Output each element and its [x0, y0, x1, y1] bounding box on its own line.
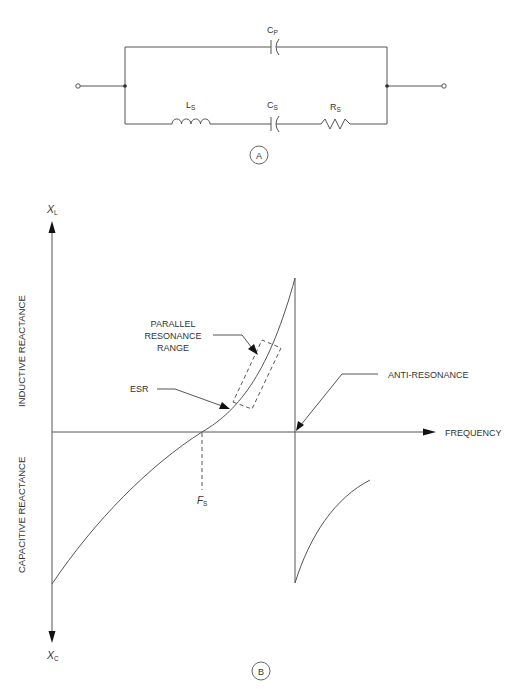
fs-label: FS [197, 495, 208, 507]
label-b-badge: B [252, 662, 270, 680]
frequency-label: FREQUENCY [445, 428, 502, 438]
inductor-ls [172, 119, 210, 124]
label-a-badge: A [250, 146, 268, 164]
parallel-label-line3: RANGE [157, 343, 189, 353]
parallel-label-line1: PARALLEL [151, 319, 196, 329]
anti-resonance-leader [300, 374, 378, 426]
parallel-label-line2: RESONANCE [144, 331, 201, 341]
ls-label: LS [186, 100, 196, 111]
inductive-reactance-label: INDUCTIVE REACTANCE [16, 295, 27, 407]
cs-label: CS [267, 100, 279, 111]
equivalent-circuit [76, 39, 446, 132]
rs-label: RS [330, 102, 342, 113]
xl-label: XL [46, 203, 58, 216]
xc-label: XC [46, 649, 59, 662]
esr-arrow-icon [219, 402, 230, 409]
crystal-diagram: CP LS CS RS A XL XC INDUCTIVE REACT [0, 0, 521, 689]
parallel-arrow-icon [248, 344, 258, 355]
svg-text:A: A [256, 151, 262, 161]
svg-text:B: B [258, 667, 264, 677]
capacitive-reactance-label: CAPACITIVE REACTANCE [16, 457, 27, 573]
x-axis-arrow-icon [423, 429, 436, 436]
right-terminal [442, 84, 446, 88]
resistor-rs [321, 119, 350, 129]
reactance-plot [49, 221, 437, 643]
y-axis-bottom-arrow-icon [49, 631, 56, 643]
y-axis-top-arrow-icon [49, 221, 56, 233]
left-terminal [76, 84, 80, 88]
esr-leader [157, 389, 222, 406]
parallel-leader [213, 335, 252, 348]
esr-label: ESR [130, 384, 149, 394]
reactance-curve-upper [295, 480, 370, 583]
cp-label: CP [267, 25, 278, 36]
anti-resonance-label: ANTI-RESONANCE [388, 370, 469, 380]
